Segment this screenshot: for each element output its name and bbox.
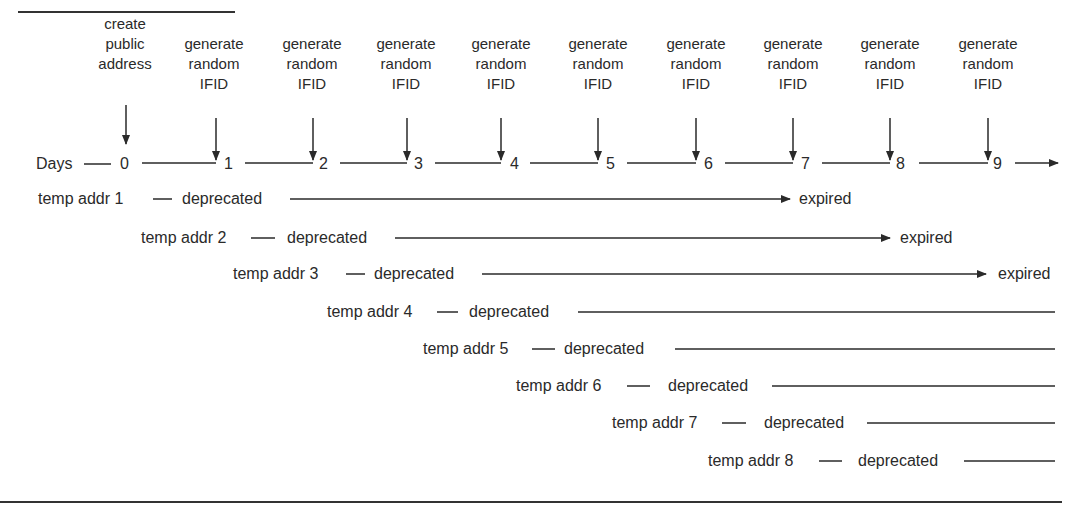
bottom-rule: [0, 501, 1062, 503]
timeline-lines: [0, 0, 1086, 515]
